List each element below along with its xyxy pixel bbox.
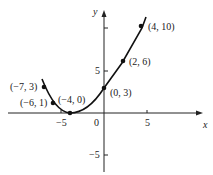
point-neg4-0 bbox=[68, 111, 73, 116]
label-2-6: (2, 6) bbox=[129, 56, 151, 68]
x-tick-label-5: 5 bbox=[145, 117, 150, 128]
y-axis-arrow-icon bbox=[102, 10, 107, 17]
point-neg6-1 bbox=[51, 101, 56, 106]
label-neg6-1: (−6, 1) bbox=[20, 97, 47, 109]
point-0-3 bbox=[102, 86, 107, 91]
label-0-3: (0, 3) bbox=[110, 87, 132, 99]
x-axis-arrow-icon bbox=[196, 111, 203, 116]
point-neg7-3 bbox=[42, 85, 47, 90]
y-tick-label-neg5: −5 bbox=[89, 149, 100, 160]
label-neg7-3: (−7, 3) bbox=[10, 81, 37, 93]
chart: −5 0 5 5 −5 x y (−7, 3) (−6, 1) (−4, 0) … bbox=[0, 0, 213, 175]
y-tick-label-5: 5 bbox=[95, 65, 100, 76]
label-neg4-0: (−4, 0) bbox=[58, 94, 85, 106]
y-axis-label: y bbox=[92, 6, 98, 17]
x-tick-label-neg5: −5 bbox=[56, 117, 67, 128]
point-4-10 bbox=[139, 24, 144, 29]
point-2-6 bbox=[121, 59, 126, 64]
x-axis-label: x bbox=[202, 119, 208, 130]
label-4-10: (4, 10) bbox=[148, 21, 175, 33]
x-tick-label-0: 0 bbox=[94, 117, 99, 128]
